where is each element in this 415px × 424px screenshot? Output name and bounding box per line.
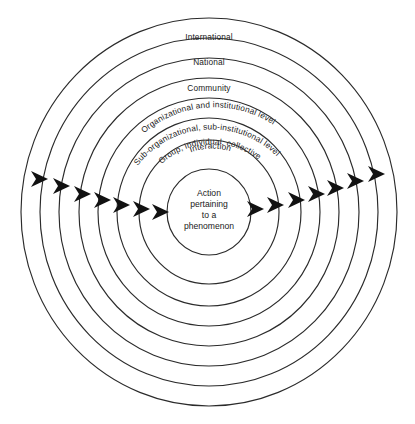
core-line-2: pertaining xyxy=(190,199,228,209)
diagram-root: International National Community Organiz… xyxy=(0,0,415,424)
core-line-3: to a xyxy=(202,210,217,220)
ring-international-label: International xyxy=(185,32,233,42)
core-line-1: Action xyxy=(197,188,221,198)
core-action: Action pertaining to a phenomenon xyxy=(167,169,251,255)
concentric-circles-diagram: International National Community Organiz… xyxy=(0,0,415,424)
ring-community-label: Community xyxy=(187,83,231,93)
core-line-4: phenomenon xyxy=(184,221,234,231)
